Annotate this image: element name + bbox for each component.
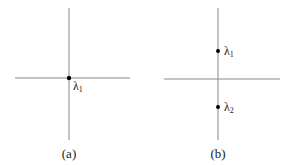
panel-a-label-lambda1: λ1: [73, 80, 83, 96]
panel-b-caption: (b): [210, 147, 225, 160]
figure: λ1 λ1 λ2 (a) (b): [0, 0, 292, 165]
panel-b-label-lambda1: λ1: [224, 45, 234, 61]
axes-drawing: [0, 0, 292, 165]
panel-b-label-lambda2: λ2: [224, 101, 234, 117]
panel-b-point-lambda2: [216, 105, 220, 109]
panel-a-caption: (a): [62, 147, 76, 160]
panel-a-point-lambda1: [67, 76, 71, 80]
panel-b-point-lambda1: [216, 49, 220, 53]
